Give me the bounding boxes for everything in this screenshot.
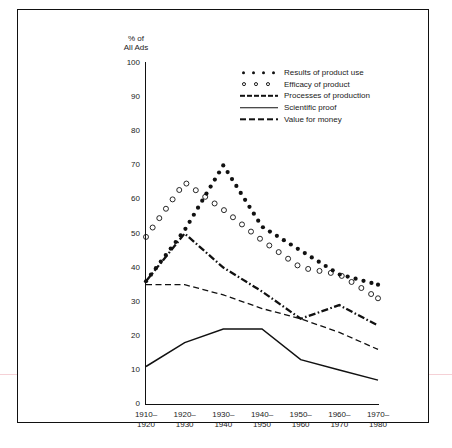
data-marker-filled (230, 177, 234, 181)
data-marker-filled (282, 238, 286, 242)
y-tick-30: 30 (110, 298, 140, 306)
data-marker-filled (289, 242, 293, 246)
data-marker-filled (317, 260, 321, 264)
y-axis-title: % of All Ads (110, 34, 162, 52)
series-line (146, 234, 378, 326)
data-marker-filled (296, 247, 300, 251)
data-marker-filled (188, 220, 192, 224)
data-marker-open (359, 286, 364, 291)
data-marker-filled (196, 206, 200, 210)
data-marker-open (349, 279, 354, 284)
x-tick-6: 1970–1980 (356, 410, 400, 429)
data-marker-filled (324, 264, 328, 268)
data-marker-filled (353, 277, 357, 281)
data-marker-filled (243, 198, 247, 202)
data-marker-open (177, 187, 182, 192)
x-tick-4: 1950–1960 (279, 410, 323, 429)
data-marker-filled (183, 227, 187, 231)
data-marker-open (239, 222, 244, 227)
x-tick-top: 1930– (201, 410, 245, 420)
data-marker-filled (310, 255, 314, 259)
y-tick-70: 70 (110, 161, 140, 169)
data-marker-filled (252, 212, 256, 216)
x-tick-bottom: 1950 (240, 420, 284, 430)
data-marker-open (163, 206, 168, 211)
x-tick-top: 1940– (240, 410, 284, 420)
data-marker-filled (247, 205, 251, 209)
data-marker-open (286, 256, 291, 261)
y-tick-80: 80 (110, 127, 140, 135)
data-marker-filled (192, 213, 196, 217)
data-marker-open (276, 250, 281, 255)
series-2 (146, 234, 378, 326)
x-tick-top: 1920– (163, 410, 207, 420)
y-tick-50: 50 (110, 230, 140, 238)
y-axis-title-line2: All Ads (110, 43, 162, 52)
data-marker-open (212, 201, 217, 206)
x-tick-bottom: 1940 (201, 420, 245, 430)
data-marker-open (221, 208, 226, 213)
data-marker-open (150, 225, 155, 230)
data-marker-open (295, 263, 300, 268)
data-marker-open (317, 268, 322, 273)
x-tick-top: 1970– (356, 410, 400, 420)
plot-area (146, 63, 378, 404)
x-tick-bottom: 1980 (356, 420, 400, 430)
series-line (146, 329, 378, 380)
data-marker-filled (275, 234, 279, 238)
data-marker-filled (209, 184, 213, 188)
data-marker-filled (221, 163, 225, 167)
data-marker-filled (361, 279, 365, 283)
x-tick-1: 1920–1930 (163, 410, 207, 429)
x-tick-3: 1940–1950 (240, 410, 284, 429)
x-tick-top: 1910– (124, 410, 168, 420)
data-marker-open (369, 292, 374, 297)
series-4 (146, 285, 378, 350)
data-marker-filled (346, 275, 350, 279)
data-marker-open (267, 243, 272, 248)
series-line (146, 285, 378, 350)
data-marker-open (306, 266, 311, 271)
series-0 (144, 163, 380, 286)
x-tick-5: 1960–1970 (317, 410, 361, 429)
y-tick-100: 100 (110, 59, 140, 67)
data-marker-open (193, 188, 198, 193)
y-tick-90: 90 (110, 93, 140, 101)
y-tick-40: 40 (110, 264, 140, 272)
data-marker-open (170, 197, 175, 202)
x-tick-bottom: 1970 (317, 420, 361, 430)
data-marker-filled (256, 219, 260, 223)
data-marker-filled (234, 184, 238, 188)
data-marker-filled (268, 229, 272, 233)
data-marker-open (376, 296, 381, 301)
data-marker-open (230, 215, 235, 220)
x-tick-2: 1930–1940 (201, 410, 245, 429)
x-tick-bottom: 1960 (279, 420, 323, 430)
data-marker-open (248, 229, 253, 234)
data-marker-filled (239, 191, 243, 195)
x-tick-bottom: 1930 (163, 420, 207, 430)
y-tick-10: 10 (110, 366, 140, 374)
series-1 (144, 181, 381, 301)
chart-frame: % of All Ads 1009080706050403020100 1910… (17, 9, 429, 423)
data-marker-filled (213, 177, 217, 181)
y-axis-title-line1: % of (110, 34, 162, 43)
x-tick-bottom: 1920 (124, 420, 168, 430)
y-tick-0: 0 (110, 400, 140, 408)
data-marker-filled (303, 251, 307, 255)
series-3 (146, 329, 378, 380)
data-marker-open (184, 181, 189, 186)
x-tick-top: 1950– (279, 410, 323, 420)
data-marker-open (157, 216, 162, 221)
y-tick-20: 20 (110, 332, 140, 340)
x-tick-0: 1910–1920 (124, 410, 168, 429)
data-marker-filled (369, 281, 373, 285)
y-tick-60: 60 (110, 195, 140, 203)
data-marker-open (257, 236, 262, 241)
data-marker-filled (226, 170, 230, 174)
series-layer (146, 63, 378, 404)
data-marker-filled (261, 225, 265, 229)
data-marker-filled (376, 283, 380, 287)
x-tick-top: 1960– (317, 410, 361, 420)
data-marker-filled (217, 170, 221, 174)
